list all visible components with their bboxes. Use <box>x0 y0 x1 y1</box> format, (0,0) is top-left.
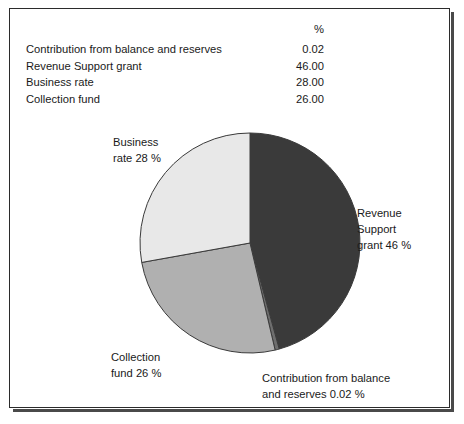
table-cell-label: Collection fund <box>26 92 260 109</box>
pie-label-revenue-support-line3: grant 46 % <box>357 237 411 253</box>
table-header-label <box>26 22 260 42</box>
pie-label-collection-fund: Collection fund 26 % <box>111 349 161 381</box>
table-row: Collection fund26.00 <box>26 92 326 109</box>
pie-slice <box>142 243 275 353</box>
pie-label-business-rate: Business rate 28 % <box>113 134 161 166</box>
table-cell-label: Revenue Support grant <box>26 59 260 76</box>
pie-label-contribution-line2: and reserves 0.02 % <box>262 386 390 402</box>
pie-label-business-rate-line1: Business <box>113 134 161 150</box>
pie-slices <box>140 133 360 353</box>
panel-shadow-bottom <box>13 409 454 412</box>
table-row: Business rate28.00 <box>26 75 326 92</box>
table-body: Contribution from balance and reserves0.… <box>26 42 326 109</box>
pie-label-collection-fund-line1: Collection <box>111 349 161 365</box>
pie-label-revenue-support: Revenue Support grant 46 % <box>357 205 411 254</box>
table-cell-value: 26.00 <box>260 92 326 109</box>
table-row: Contribution from balance and reserves0.… <box>26 42 326 59</box>
table-cell-value: 28.00 <box>260 75 326 92</box>
table-header-row: % <box>26 22 326 42</box>
table-row: Revenue Support grant46.00 <box>26 59 326 76</box>
percentage-table: % Contribution from balance and reserves… <box>26 22 326 109</box>
pie-label-business-rate-line2: rate 28 % <box>113 150 161 166</box>
panel-shadow-right <box>451 12 454 412</box>
table-header-percent: % <box>260 22 326 42</box>
pie-slice <box>140 133 250 262</box>
pie-label-contribution: Contribution from balance and reserves 0… <box>262 370 390 402</box>
table-cell-label: Contribution from balance and reserves <box>26 42 260 59</box>
pie-slice <box>250 133 360 349</box>
table-cell-value: 0.02 <box>260 42 326 59</box>
screenshot-page: % Contribution from balance and reserves… <box>0 0 464 424</box>
table-cell-label: Business rate <box>26 75 260 92</box>
pie-label-contribution-line1: Contribution from balance <box>262 370 390 386</box>
pie-slice <box>250 243 279 350</box>
pie-label-revenue-support-line1: Revenue <box>357 205 411 221</box>
chart-panel: % Contribution from balance and reserves… <box>9 8 450 408</box>
pie-label-collection-fund-line2: fund 26 % <box>111 365 161 381</box>
table-cell-value: 46.00 <box>260 59 326 76</box>
pie-label-revenue-support-line2: Support <box>357 221 411 237</box>
